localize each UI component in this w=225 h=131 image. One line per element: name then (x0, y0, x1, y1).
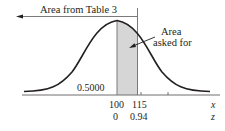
z-axis-label: z (210, 111, 215, 122)
normal-curve-diagram: Area from Table 3 Area asked for 0.5000 … (0, 0, 225, 131)
z-tick-label-value: 0.94 (130, 111, 148, 122)
half-area-label: 0.5000 (77, 82, 105, 93)
z-tick-label-mean: 0 (113, 111, 118, 122)
area-asked-label-line2: asked for (153, 37, 192, 48)
area-from-table-label: Area from Table 3 (40, 4, 117, 15)
x-axis-label: x (210, 99, 216, 110)
x-tick-label-value: 115 (132, 99, 147, 110)
shaded-area (117, 21, 137, 96)
x-tick-label-mean: 100 (109, 99, 124, 110)
arrow-left-icon (16, 15, 23, 19)
area-asked-label-line1: Area (161, 26, 182, 37)
